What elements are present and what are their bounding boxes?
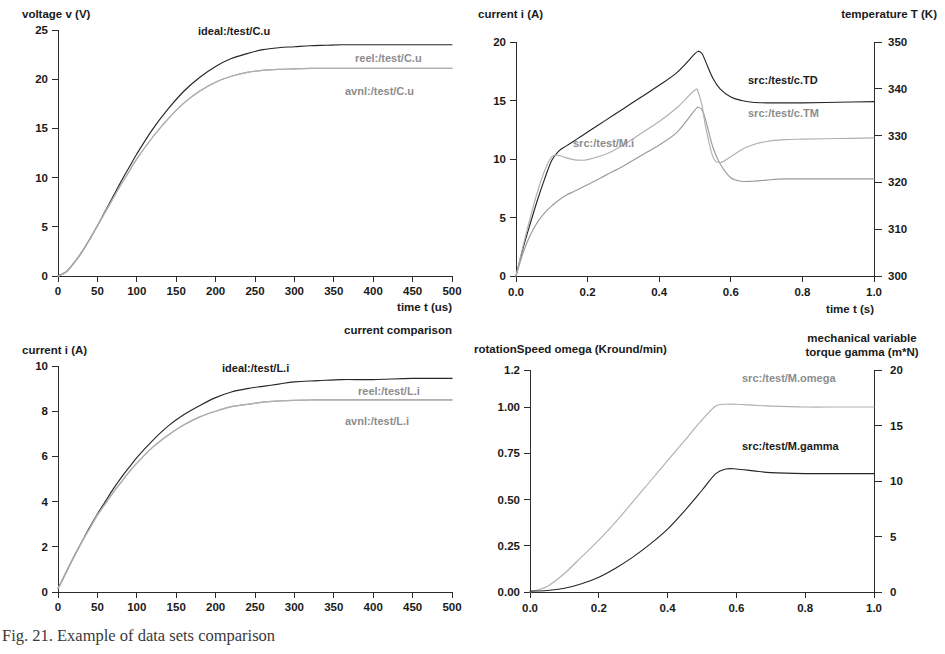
plot-panel-current-comparison: current comparison current i (A) 10 8 6 …	[0, 320, 470, 620]
svg-text:200: 200	[206, 285, 225, 297]
curve-top_right-1	[516, 107, 874, 276]
svg-text:15: 15	[493, 95, 506, 107]
x-ticks-top-right: 0.0 0.2 0.4 0.6 0.8 1.0	[508, 276, 882, 298]
svg-text:0: 0	[55, 601, 61, 613]
svg-text:100: 100	[127, 601, 146, 613]
svg-text:20: 20	[493, 36, 506, 48]
curve-bottom_left-1	[58, 400, 452, 589]
svg-text:320: 320	[888, 176, 907, 188]
curve-label-avnl-li: avnl:/test/L.i	[345, 415, 409, 427]
curve-label-ideal-cu: ideal:/test/C.u	[198, 25, 270, 37]
svg-text:0.75: 0.75	[498, 447, 521, 459]
y2-axis-title-line1-bottom-right: mechanical variable	[807, 332, 916, 344]
curve-label-gamma: src:/test/M.gamma	[742, 440, 839, 452]
svg-text:10: 10	[35, 360, 48, 372]
svg-text:0.8: 0.8	[797, 602, 814, 614]
svg-text:15: 15	[35, 122, 48, 134]
panel-title-current-comparison: current comparison	[344, 324, 452, 336]
curve-label-td: src:/test/c.TD	[748, 74, 818, 86]
y-ticks-bottom-right: 1.2 1.00 0.75 0.50 0.25 0.00	[498, 364, 530, 598]
svg-text:0.0: 0.0	[508, 286, 524, 298]
curve-bottom_left-0	[58, 378, 452, 588]
svg-text:310: 310	[888, 223, 907, 235]
svg-text:0.4: 0.4	[660, 602, 677, 614]
svg-text:8: 8	[42, 405, 49, 417]
x-ticks-bottom-left: 0 50 100 150 200 250 300 350 400 450 500	[55, 592, 462, 613]
curves-bottom-left	[58, 378, 452, 588]
svg-text:350: 350	[324, 285, 343, 297]
svg-text:340: 340	[888, 83, 907, 95]
curve-top_right-0	[516, 51, 874, 276]
curve-label-omega: src:/test/M.omega	[742, 372, 836, 384]
svg-text:200: 200	[206, 601, 225, 613]
svg-text:350: 350	[324, 601, 343, 613]
curves-top-left	[58, 45, 452, 276]
svg-text:0.2: 0.2	[591, 602, 607, 614]
svg-text:6: 6	[42, 450, 48, 462]
svg-text:150: 150	[167, 285, 186, 297]
svg-text:10: 10	[493, 153, 506, 165]
curve-label-avnl-cu: avnl:/test/C.u	[345, 85, 414, 97]
curve-bottom_right-0	[530, 404, 874, 592]
curve-top_left-0	[58, 45, 452, 276]
svg-text:0: 0	[55, 285, 61, 297]
svg-text:0.4: 0.4	[651, 286, 668, 298]
svg-text:500: 500	[442, 601, 461, 613]
curve-label-ideal-li: ideal:/test/L.i	[222, 362, 289, 374]
svg-text:0: 0	[42, 270, 48, 282]
curve-label-reel-li: reel:/test/L.i	[358, 385, 420, 397]
svg-text:5: 5	[42, 221, 49, 233]
svg-text:1.0: 1.0	[866, 286, 882, 298]
svg-text:1.00: 1.00	[498, 401, 520, 413]
svg-text:0: 0	[500, 270, 506, 282]
curve-top_left-1	[58, 68, 452, 276]
curve-label-tm: src:/test/c.TM	[748, 107, 819, 119]
svg-text:1.0: 1.0	[866, 602, 882, 614]
svg-text:0: 0	[890, 586, 896, 598]
svg-text:300: 300	[888, 270, 907, 282]
svg-text:150: 150	[167, 601, 186, 613]
svg-text:100: 100	[127, 285, 146, 297]
svg-text:400: 400	[364, 601, 383, 613]
svg-text:0.00: 0.00	[498, 586, 520, 598]
svg-text:250: 250	[245, 285, 264, 297]
svg-text:50: 50	[91, 601, 104, 613]
curve-label-mi: src:/test/M.i	[573, 137, 634, 149]
svg-text:0.2: 0.2	[580, 286, 596, 298]
svg-text:500: 500	[442, 285, 461, 297]
svg-text:0.6: 0.6	[723, 286, 739, 298]
svg-text:250: 250	[245, 601, 264, 613]
svg-text:0.8: 0.8	[794, 286, 811, 298]
curves-bottom-right	[530, 404, 874, 592]
svg-text:330: 330	[888, 130, 907, 142]
curve-label-reel-cu: reel:/test/C.u	[355, 52, 422, 64]
svg-text:20: 20	[35, 73, 48, 85]
svg-text:450: 450	[403, 601, 422, 613]
svg-text:1.2: 1.2	[504, 364, 520, 376]
svg-text:0.50: 0.50	[498, 494, 520, 506]
svg-text:2: 2	[42, 541, 48, 553]
svg-text:450: 450	[403, 285, 422, 297]
y2-ticks-top-right: 350 340 330 320 310 300	[874, 36, 907, 282]
svg-text:10: 10	[890, 475, 903, 487]
y2-axis-title-line2-bottom-right: torque gamma (m*N)	[805, 346, 918, 358]
svg-text:4: 4	[42, 496, 49, 508]
svg-text:350: 350	[888, 36, 907, 48]
plot-panel-speed-torque: rotationSpeed omega (Kround/min) mechani…	[470, 320, 945, 620]
y2-ticks-bottom-right: 20 15 10 5 0	[874, 364, 903, 598]
curve-bottom_right-1	[530, 469, 874, 592]
curve-bottom_left-2	[58, 400, 452, 589]
svg-text:10: 10	[35, 172, 48, 184]
y-axis-title-top-left: voltage v (V)	[22, 8, 91, 20]
svg-text:0: 0	[42, 586, 48, 598]
x-ticks-bottom-right: 0.0 0.2 0.4 0.6 0.8 1.0	[522, 592, 882, 614]
x-axis-title-top-right: time t (s)	[826, 303, 874, 315]
y-ticks-top-left: 25 20 15 10 5 0	[35, 24, 58, 282]
svg-text:5: 5	[500, 212, 507, 224]
plot-panel-current-temperature: current i (A) temperature T (K) 20 15 10…	[470, 0, 945, 320]
svg-text:20: 20	[890, 364, 903, 376]
svg-text:300: 300	[285, 285, 304, 297]
plot-panel-capacitor-voltage: voltage v (V) 25 20 15 10 5 0	[0, 0, 470, 320]
figure-root: voltage v (V) 25 20 15 10 5 0	[0, 0, 945, 654]
svg-text:300: 300	[285, 601, 304, 613]
